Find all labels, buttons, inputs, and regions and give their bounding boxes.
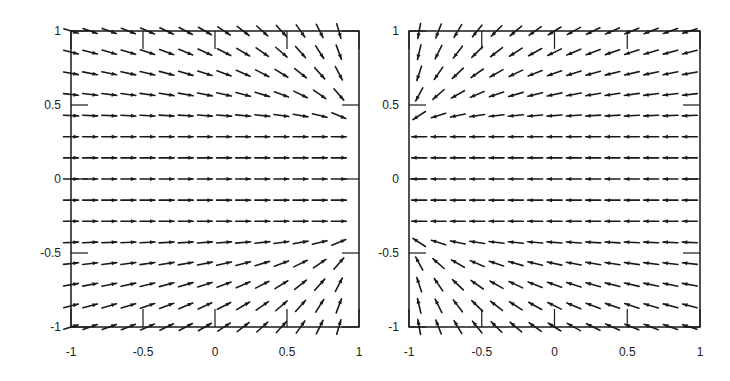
arrow-head-icon [547, 198, 552, 202]
arrow-head-icon [489, 177, 494, 181]
arrow-head-icon [74, 177, 79, 181]
arrow-head-icon [265, 198, 270, 202]
arrow-head-icon [624, 198, 629, 202]
arrow-head-icon [206, 303, 211, 307]
arrow-head-icon [586, 219, 591, 223]
x-tick-label: 0.5 [619, 345, 636, 359]
arrow-head-icon [508, 177, 513, 181]
arrow-head-icon [188, 198, 193, 202]
arrow-head-icon [528, 135, 533, 139]
arrow-head-icon [131, 198, 136, 202]
arrow-head-icon [663, 177, 668, 181]
arrow-head-icon [131, 114, 136, 118]
arrow-head-icon [207, 72, 212, 76]
arrow-head-icon [547, 114, 552, 118]
arrow-head-icon [508, 135, 513, 139]
left-quiver-plot: -1-0.500.51-1-0.500.51 [40, 24, 362, 359]
arrow-head-icon [207, 240, 212, 244]
arrow-head-icon [624, 114, 629, 118]
arrow-head-icon [338, 75, 342, 80]
arrow-head-icon [644, 177, 649, 181]
arrow-head-icon [244, 52, 249, 56]
arrow-head-icon [644, 219, 649, 223]
arrow-head-icon [508, 219, 513, 223]
arrow-head-icon [207, 219, 212, 223]
arrow-head-icon [264, 93, 269, 97]
arrow-head-icon [207, 135, 212, 139]
arrow-head-icon [150, 156, 155, 160]
arrow-head-icon [207, 282, 212, 286]
arrow-head-icon [412, 219, 417, 223]
arrow-head-icon [586, 114, 591, 118]
y-tick-label: -1 [388, 320, 399, 334]
arrow-head-icon [529, 52, 534, 56]
arrow-head-icon [586, 198, 591, 202]
arrow-head-icon [92, 51, 97, 55]
arrow-head-icon [188, 219, 193, 223]
arrow-head-icon [341, 177, 346, 181]
arrow-head-icon [586, 135, 591, 139]
arrow-head-icon [566, 198, 571, 202]
arrow-head-icon [489, 219, 494, 223]
arrow-head-icon [625, 303, 630, 307]
arrow-head-icon [566, 135, 571, 139]
arrow-head-icon [644, 114, 649, 118]
arrow-head-icon [265, 219, 270, 223]
arrow-head-icon [567, 51, 572, 55]
arrow-head-icon [188, 72, 193, 76]
arrow-head-icon [74, 156, 79, 160]
arrow-head-icon [227, 219, 232, 223]
arrow-head-icon [93, 219, 98, 223]
arrow-head-icon [264, 281, 269, 285]
arrow-head-icon [682, 198, 687, 202]
arrow-head-icon [586, 156, 591, 160]
arrow-head-icon [112, 240, 117, 244]
arrow-head-icon [188, 240, 193, 244]
arrow-head-icon [416, 96, 420, 101]
arrow-head-icon [338, 299, 342, 304]
arrow-head-icon [451, 260, 456, 264]
arrow-head-icon [150, 219, 155, 223]
arrow-head-icon [226, 72, 231, 76]
arrow-head-icon [226, 282, 231, 286]
arrow-head-icon [246, 135, 251, 139]
arrow-head-icon [566, 177, 571, 181]
arrow-head-icon [547, 72, 552, 76]
arrow-head-icon [470, 156, 475, 160]
y-tick-label: -1 [50, 320, 61, 334]
arrow-head-icon [73, 114, 78, 118]
arrow-head-icon [605, 114, 610, 118]
arrow-head-icon [111, 51, 116, 55]
arrow-head-icon [586, 303, 591, 307]
arrow-head-icon [227, 177, 232, 181]
quiver-figure: -1-0.500.51-1-0.500.51 -1-0.500.51-1-0.5… [0, 0, 730, 381]
x-tick-label: 1 [356, 345, 363, 359]
arrow-head-icon [187, 51, 192, 55]
arrow-head-icon [547, 282, 552, 286]
arrow-head-icon [207, 156, 212, 160]
arrow-head-icon [207, 114, 212, 118]
arrow-head-icon [92, 303, 97, 307]
arrow-head-icon [663, 114, 668, 118]
x-tick-label: -1 [404, 345, 415, 359]
arrow-head-icon [624, 240, 629, 244]
arrow-head-icon [682, 219, 687, 223]
arrow-head-icon [149, 51, 154, 55]
arrow-head-icon [338, 278, 342, 283]
arrow-head-icon [150, 135, 155, 139]
arrow-head-icon [436, 33, 440, 38]
arrow-head-icon [303, 219, 308, 223]
arrow-head-icon [303, 135, 308, 139]
arrow-head-icon [663, 198, 668, 202]
arrow-head-icon [566, 219, 571, 223]
arrow-head-icon [284, 198, 289, 202]
arrow-head-icon [412, 156, 417, 160]
arrow-head-icon [682, 156, 687, 160]
x-tick-label: -0.5 [471, 345, 492, 359]
arrow-head-icon [303, 198, 308, 202]
arrow-head-icon [112, 198, 117, 202]
arrow-head-icon [451, 94, 456, 98]
arrow-head-icon [624, 156, 629, 160]
arrow-head-icon [548, 51, 553, 55]
arrow-head-icon [131, 240, 136, 244]
